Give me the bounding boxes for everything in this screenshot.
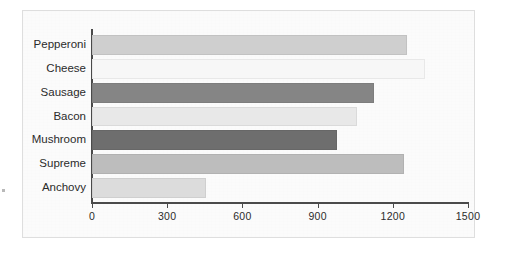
x-tick-mark-1500: [468, 203, 469, 208]
category-label-anchovy: Anchovy: [2, 182, 86, 194]
category-label-supreme: Supreme: [2, 158, 86, 170]
bar-anchovy: [92, 178, 206, 198]
plot-area: PepperoniCheeseSausageBaconMushroomSupre…: [0, 0, 509, 253]
x-tick-label-0: 0: [72, 210, 112, 222]
x-tick-label-300: 300: [147, 210, 187, 222]
bar-cheese: [92, 59, 425, 79]
bar-supreme: [92, 154, 404, 174]
category-label-cheese: Cheese: [2, 63, 86, 75]
x-tick-mark-1200: [393, 203, 394, 208]
x-axis-line: [91, 202, 469, 204]
category-label-mushroom: Mushroom: [2, 134, 86, 146]
bar-pepperoni: [92, 35, 407, 55]
x-tick-mark-600: [242, 203, 243, 208]
x-tick-mark-900: [318, 203, 319, 208]
category-label-sausage: Sausage: [2, 87, 86, 99]
bar-sausage: [92, 83, 374, 103]
category-label-bacon: Bacon: [2, 111, 86, 123]
x-tick-label-600: 600: [222, 210, 262, 222]
x-tick-label-1200: 1200: [373, 210, 413, 222]
x-tick-label-1500: 1500: [448, 210, 488, 222]
bar-bacon: [92, 107, 357, 127]
x-tick-label-900: 900: [298, 210, 338, 222]
category-label-pepperoni: Pepperoni: [2, 39, 86, 51]
bar-chart-screenshot: PepperoniCheeseSausageBaconMushroomSupre…: [0, 0, 509, 253]
bar-mushroom: [92, 130, 337, 150]
x-tick-mark-0: [92, 203, 93, 208]
x-tick-mark-300: [167, 203, 168, 208]
